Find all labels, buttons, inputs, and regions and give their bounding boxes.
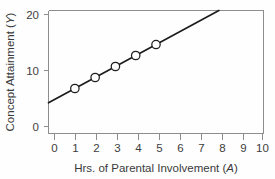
plot-frame xyxy=(49,11,264,134)
y-axis-ticks xyxy=(44,15,49,127)
x-axis-ticks xyxy=(55,134,263,140)
y-tick-label-10: 10 xyxy=(26,65,39,77)
scatter-plot: 20 10 0 0 1 2 3 4 5 6 7 8 xyxy=(0,0,275,179)
data-point xyxy=(71,84,79,92)
x-tick-label-6: 6 xyxy=(177,142,183,154)
svg-text:Hrs. of Parental Involvement (: Hrs. of Parental Involvement (A) xyxy=(74,162,238,174)
x-axis-title-variable: A xyxy=(225,162,234,174)
x-tick-label-1: 1 xyxy=(72,142,78,154)
x-tick-label-4: 4 xyxy=(135,142,142,154)
x-tick-label-8: 8 xyxy=(219,142,225,154)
chart-figure: 20 10 0 0 1 2 3 4 5 6 7 8 xyxy=(0,0,275,179)
y-tick-label-0: 0 xyxy=(33,121,39,133)
data-point xyxy=(111,62,119,70)
x-tick-label-3: 3 xyxy=(114,142,120,154)
data-point xyxy=(152,40,160,48)
y-axis-title-close: ) xyxy=(4,12,16,16)
svg-text:Concept Attainment (Y): Concept Attainment (Y) xyxy=(4,12,16,131)
x-tick-label-2: 2 xyxy=(93,142,99,154)
x-tick-label-0: 0 xyxy=(51,142,57,154)
x-tick-label-5: 5 xyxy=(156,142,162,154)
x-tick-label-9: 9 xyxy=(240,142,246,154)
data-point xyxy=(91,73,99,81)
y-tick-label-20: 20 xyxy=(26,9,39,21)
y-axis-title: Concept Attainment (Y) xyxy=(4,12,16,131)
x-axis-title-text: Hrs. of Parental Involvement ( xyxy=(74,162,226,174)
data-point xyxy=(132,51,140,59)
y-axis-title-text: Concept Attainment ( xyxy=(4,24,16,132)
x-tick-label-7: 7 xyxy=(198,142,204,154)
data-point-group xyxy=(71,40,161,92)
x-tick-label-10: 10 xyxy=(256,142,269,154)
x-axis-tick-labels: 0 1 2 3 4 5 6 7 8 9 10 xyxy=(51,142,269,154)
x-axis-title: Hrs. of Parental Involvement (A) xyxy=(74,162,238,174)
y-axis-tick-labels: 20 10 0 xyxy=(26,9,39,133)
x-axis-title-close: ) xyxy=(234,162,238,174)
